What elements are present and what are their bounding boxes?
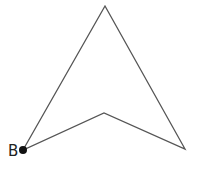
point-b-label: B <box>8 142 18 160</box>
arrowhead-diagram: B <box>0 0 206 183</box>
arrowhead-shape <box>23 6 185 150</box>
point-b-marker <box>19 146 27 154</box>
